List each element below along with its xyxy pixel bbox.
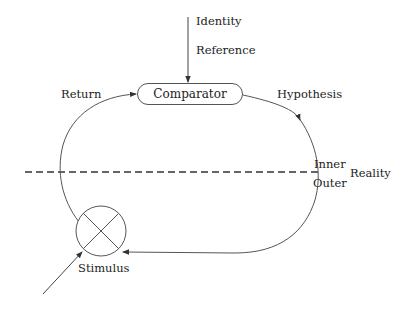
identity-label: Identity <box>196 16 242 28</box>
hypothesis-loop-path <box>123 118 318 253</box>
reference-label: Reference <box>196 45 255 57</box>
inner-label: Inner <box>314 159 346 171</box>
comparator-label: Comparator <box>153 87 226 101</box>
stimulus-junction <box>76 206 126 256</box>
return-label: Return <box>61 89 101 101</box>
external-input-arrow <box>43 252 82 294</box>
outer-label: Outer <box>313 178 347 190</box>
reality-label: Reality <box>350 168 391 180</box>
hypothesis-label: Hypothesis <box>277 89 342 101</box>
return-arrow <box>60 94 136 222</box>
stimulus-label: Stimulus <box>78 263 129 275</box>
comparator-node: Comparator <box>137 83 243 105</box>
